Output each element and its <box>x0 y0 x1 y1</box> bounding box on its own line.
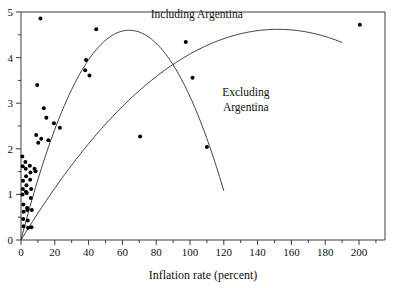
data-point <box>38 16 42 20</box>
data-point <box>44 116 48 120</box>
y-tick-label: 0 <box>8 234 14 246</box>
data-point <box>28 164 32 168</box>
data-point <box>28 171 32 175</box>
data-point <box>30 208 34 212</box>
x-tick-label: 0 <box>18 246 24 258</box>
data-point <box>25 191 29 195</box>
annotation-label: Argentina <box>223 101 269 114</box>
y-tick-label: 2 <box>8 143 14 155</box>
data-point <box>21 192 25 196</box>
data-point <box>26 218 30 222</box>
chart-figure: 020406080100120140160180200 012345 Inclu… <box>0 0 394 288</box>
data-point <box>20 155 24 159</box>
data-point <box>21 217 25 221</box>
x-tick-label: 20 <box>49 246 61 258</box>
x-tick-label: 140 <box>249 246 266 258</box>
data-point <box>35 83 39 87</box>
data-point <box>358 23 362 27</box>
annotation-label: Excluding <box>222 86 270 99</box>
data-point <box>28 178 32 182</box>
data-point <box>24 183 28 187</box>
data-point <box>39 137 43 141</box>
data-point <box>58 126 62 130</box>
x-tick-label: 160 <box>283 246 300 258</box>
data-point <box>24 167 28 171</box>
data-point <box>42 106 46 110</box>
data-point <box>138 134 142 138</box>
data-point <box>84 58 88 62</box>
data-point <box>191 76 195 80</box>
x-tick-label: 200 <box>351 246 368 258</box>
data-point <box>21 187 25 191</box>
data-point <box>36 141 40 145</box>
scatter-plot: 020406080100120140160180200 012345 Inclu… <box>0 0 394 288</box>
x-tick-label: 80 <box>151 246 163 258</box>
x-tick-label: 120 <box>216 246 233 258</box>
x-axis-title: Inflation rate (percent) <box>149 268 258 282</box>
x-tick-label: 100 <box>182 246 199 258</box>
y-tick-label: 3 <box>8 97 14 109</box>
data-point <box>22 224 26 228</box>
data-point <box>29 187 33 191</box>
data-point <box>205 145 209 149</box>
data-point <box>21 202 25 206</box>
data-point <box>29 225 33 229</box>
y-tick-label: 1 <box>8 188 14 200</box>
data-point <box>24 174 28 178</box>
data-point <box>21 179 25 183</box>
y-tick-label: 5 <box>8 6 14 18</box>
x-tick-label: 40 <box>83 246 95 258</box>
data-point <box>52 121 56 125</box>
chart-background <box>0 0 394 288</box>
data-point <box>34 169 38 173</box>
data-point <box>29 196 33 200</box>
data-point <box>184 40 188 44</box>
data-point <box>25 208 29 212</box>
data-point <box>46 138 50 142</box>
y-tick-label: 4 <box>8 52 14 64</box>
data-point <box>23 160 27 164</box>
x-tick-label: 180 <box>317 246 334 258</box>
data-point <box>26 226 30 230</box>
data-point <box>83 68 87 72</box>
data-point <box>87 73 91 77</box>
data-point <box>22 210 26 214</box>
data-point <box>21 164 25 168</box>
x-tick-label: 60 <box>117 246 129 258</box>
data-point <box>94 27 98 31</box>
data-point <box>34 133 38 137</box>
annotation-label: Including Argentina <box>151 8 243 21</box>
